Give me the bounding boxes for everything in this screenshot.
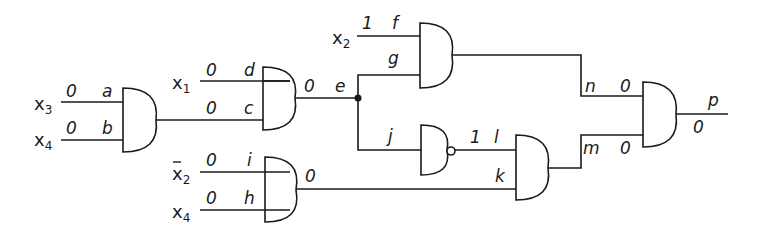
label-i: i — [247, 150, 252, 170]
wire-g — [358, 75, 420, 98]
label-g: g — [388, 48, 399, 68]
label-l: l — [494, 127, 499, 147]
label-h: h — [244, 188, 255, 208]
and-gate-5 — [265, 157, 297, 222]
label-p: p — [707, 90, 719, 110]
value-h: 0 — [206, 188, 217, 208]
input-x3-label: x3 — [34, 93, 52, 117]
and-gate-2 — [263, 67, 296, 130]
nand-gate — [421, 125, 455, 175]
value-l: 1 — [470, 127, 481, 147]
value-c: 0 — [206, 98, 217, 118]
value-n: 0 — [620, 76, 631, 96]
and-gate-6 — [516, 135, 549, 200]
value-d: 0 — [206, 60, 217, 80]
value-k: 0 — [305, 166, 316, 186]
label-d: d — [244, 60, 255, 80]
and-gate-7 — [643, 82, 676, 147]
label-n: n — [585, 76, 596, 96]
label-k: k — [495, 166, 506, 186]
label-e: e — [335, 76, 345, 96]
value-i: 0 — [206, 150, 217, 170]
input-x4b-label: x4 — [172, 201, 190, 225]
value-p: 0 — [693, 117, 704, 137]
input-x4-label: x4 — [34, 129, 52, 153]
value-m: 0 — [620, 138, 631, 158]
label-c: c — [244, 98, 254, 118]
label-a: a — [102, 81, 112, 101]
value-a: 0 — [66, 81, 77, 101]
and-gate-1 — [123, 88, 156, 152]
input-x1-label: x1 — [172, 72, 190, 96]
logic-circuit-diagram: x3 x4 0 a 0 b x1 0 d 0 c 0 e g j x2 1 f … — [0, 0, 762, 230]
value-f: 1 — [362, 13, 373, 33]
and-gate-3 — [420, 23, 453, 88]
input-x2-label: x2 — [332, 27, 350, 51]
label-b: b — [102, 118, 113, 138]
label-m: m — [583, 138, 600, 158]
label-j: j — [386, 126, 393, 146]
value-b: 0 — [66, 118, 77, 138]
input-x2bar-label: x2 — [172, 163, 190, 187]
inversion-bubble — [447, 147, 455, 155]
label-f: f — [392, 13, 401, 33]
value-e: 0 — [304, 76, 315, 96]
